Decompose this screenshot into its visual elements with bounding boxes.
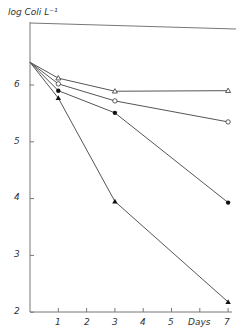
top-border-line bbox=[30, 23, 236, 29]
open-triangle-marker bbox=[56, 76, 61, 80]
chart-plot bbox=[0, 0, 246, 334]
open-circle-marker bbox=[56, 82, 60, 86]
x-tick-1: 1 bbox=[55, 317, 61, 327]
filled-circle-marker bbox=[56, 88, 60, 92]
x-tick-4: 4 bbox=[140, 317, 146, 327]
open-circle-marker bbox=[113, 99, 117, 103]
open-circle-marker bbox=[226, 120, 230, 124]
x-tick-3: 3 bbox=[112, 317, 118, 327]
x-axis-label: Days bbox=[188, 317, 210, 327]
x-tick-2: 2 bbox=[84, 317, 90, 327]
filled-circle-marker bbox=[113, 111, 117, 115]
x-tick-7: 7 bbox=[224, 317, 230, 327]
series-line bbox=[30, 62, 228, 91]
y-tick-3: 3 bbox=[14, 249, 20, 259]
y-tick-5: 5 bbox=[14, 136, 20, 146]
y-tick-2: 2 bbox=[14, 306, 20, 316]
filled-triangle-marker bbox=[112, 199, 117, 204]
y-tick-4: 4 bbox=[14, 192, 20, 202]
y-tick-6: 6 bbox=[14, 79, 20, 89]
filled-circle-marker bbox=[226, 200, 230, 204]
y-axis-label: log Coli L⁻¹ bbox=[8, 7, 58, 17]
x-tick-5: 5 bbox=[168, 317, 174, 327]
